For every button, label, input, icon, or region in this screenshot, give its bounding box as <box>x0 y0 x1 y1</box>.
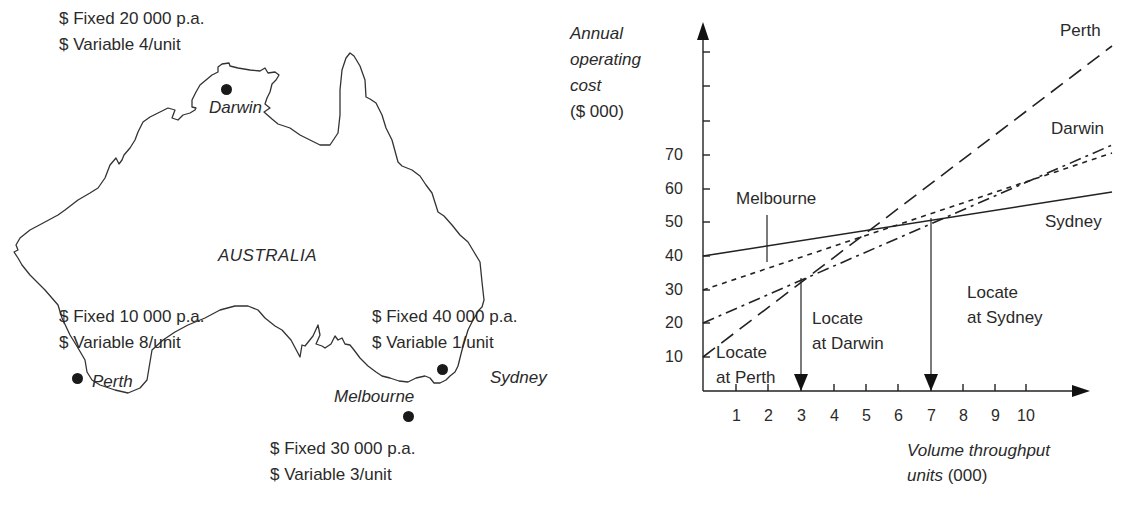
series-label-melbourne: Melbourne <box>736 189 816 209</box>
y-tick-60: 60 <box>665 180 683 198</box>
series-label-darwin: Darwin <box>1051 119 1104 139</box>
region-perth-line2: at Perth <box>716 365 776 390</box>
x-tick-2: 2 <box>764 407 773 425</box>
x-tick-6: 6 <box>894 407 903 425</box>
x-tick-10: 10 <box>1017 407 1035 425</box>
region-darwin-line2: at Darwin <box>812 331 884 356</box>
arrow-down-icon <box>794 374 808 391</box>
x-axis-label-line1: Volume throughput <box>907 438 1050 463</box>
x-axis-label-scale: (000) <box>943 466 987 485</box>
y-axis-label-line4: ($ 000) <box>570 100 624 124</box>
y-axis-arrow-icon <box>697 22 709 40</box>
arrow-down-icon <box>924 374 938 391</box>
x-tick-5: 5 <box>862 407 871 425</box>
x-tick-1: 1 <box>732 407 741 425</box>
series-label-perth: Perth <box>1060 21 1101 41</box>
x-tick-4: 4 <box>830 407 839 425</box>
x-tick-3: 3 <box>797 407 806 425</box>
region-perth-line1: Locate <box>716 340 767 365</box>
y-tick-70: 70 <box>665 146 683 164</box>
y-axis-label-line1: Annual <box>570 22 623 46</box>
region-sydney-line1: Locate <box>967 280 1018 305</box>
y-tick-30: 30 <box>665 281 683 299</box>
y-tick-50: 50 <box>665 213 683 231</box>
x-axis-label-units: units <box>907 466 943 485</box>
y-tick-40: 40 <box>665 247 683 265</box>
y-axis-label-line3: cost <box>570 74 601 98</box>
cost-chart <box>0 0 1123 506</box>
x-axis-label-line2: units (000) <box>907 463 987 488</box>
x-axis-label-text: Volume throughput <box>907 441 1050 460</box>
y-axis-label-line2: operating <box>570 48 641 72</box>
y-tick-10: 10 <box>665 348 683 366</box>
y-tick-20: 20 <box>665 314 683 332</box>
region-darwin-line1: Locate <box>812 306 863 331</box>
x-tick-7: 7 <box>927 407 936 425</box>
series-label-sydney: Sydney <box>1045 212 1102 232</box>
x-tick-9: 9 <box>991 407 1000 425</box>
region-sydney-line2: at Sydney <box>967 305 1043 330</box>
x-tick-8: 8 <box>959 407 968 425</box>
x-axis-arrow-icon <box>1072 385 1090 397</box>
darwin-line <box>703 145 1112 323</box>
